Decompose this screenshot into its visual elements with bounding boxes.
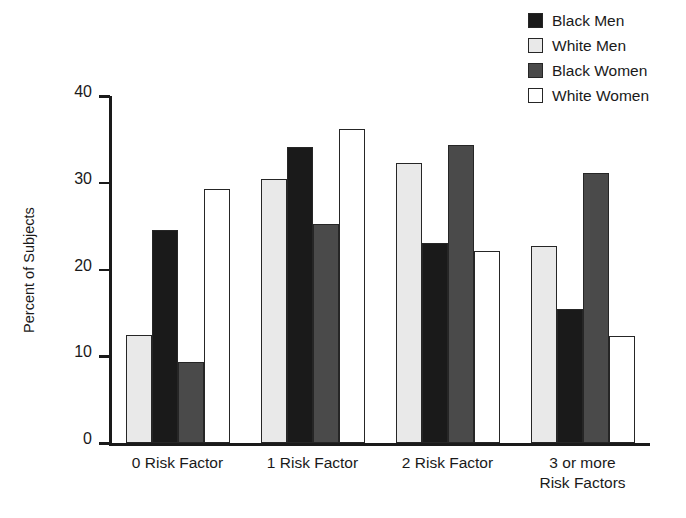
y-axis-tick-label: 10	[74, 344, 92, 360]
legend-label: White Men	[552, 38, 626, 54]
y-axis-tick: 30	[99, 182, 110, 185]
bar	[448, 145, 474, 443]
bar	[609, 336, 635, 443]
chart-legend: Black Men White Men Black Women White Wo…	[528, 8, 686, 108]
bar	[583, 173, 609, 443]
bar	[261, 179, 287, 443]
y-axis-tick: 40	[99, 95, 110, 98]
y-axis-tick-label: 40	[74, 84, 92, 100]
legend-swatch-icon	[528, 38, 543, 53]
y-axis-tick-label: 30	[74, 171, 92, 187]
x-axis-category-label: 0 Risk Factor	[110, 453, 245, 473]
bar-chart: Black Men White Men Black Women White Wo…	[0, 0, 686, 518]
bar	[313, 224, 339, 443]
legend-item-black-women: Black Women	[528, 58, 686, 83]
bar	[152, 230, 178, 443]
x-axis-line	[109, 443, 650, 446]
legend-item-black-men: Black Men	[528, 8, 686, 33]
x-axis-category-label: 3 or more Risk Factors	[515, 453, 650, 493]
bar	[422, 243, 448, 443]
x-axis-category-label: 2 Risk Factor	[380, 453, 515, 473]
x-axis-category-labels: 0 Risk Factor1 Risk Factor2 Risk Factor3…	[110, 453, 650, 513]
bars-layer	[110, 96, 650, 443]
legend-label: Black Women	[552, 63, 647, 79]
bar	[287, 147, 313, 443]
bar	[557, 309, 583, 443]
legend-swatch-icon	[528, 13, 543, 28]
y-axis-title: Percent of Subjects	[18, 96, 40, 443]
y-axis-title-label: Percent of Subjects	[21, 207, 37, 333]
x-axis-category-label: 1 Risk Factor	[245, 453, 380, 473]
y-axis-tick: 20	[99, 269, 110, 272]
bar	[531, 246, 557, 443]
bar	[339, 129, 365, 443]
y-axis-tick-label: 0	[83, 431, 92, 447]
bar	[396, 163, 422, 443]
legend-item-white-men: White Men	[528, 33, 686, 58]
bar	[178, 362, 204, 443]
legend-label: Black Men	[552, 13, 624, 29]
bar	[474, 251, 500, 443]
plot-area: 010203040	[110, 96, 650, 443]
y-axis-tick-label: 20	[74, 258, 92, 274]
y-axis-tick: 0	[99, 442, 110, 445]
y-axis-tick: 10	[99, 355, 110, 358]
bar	[126, 335, 152, 443]
bar	[204, 189, 230, 443]
legend-swatch-icon	[528, 63, 543, 78]
